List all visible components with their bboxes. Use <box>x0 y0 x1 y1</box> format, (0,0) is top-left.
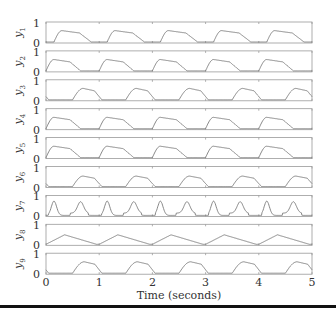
y-tick-1: 1 <box>33 190 40 203</box>
y-tick-1: 1 <box>33 104 40 117</box>
y-tick-1: 1 <box>33 17 40 30</box>
x-tick-label-5: 5 <box>309 276 316 289</box>
series-label-y3: y3 <box>12 85 27 97</box>
panel-frame <box>46 138 312 159</box>
y-tick-1: 1 <box>33 162 40 175</box>
panel-y5: 10y5 <box>12 133 312 166</box>
waveform-y5 <box>46 146 312 157</box>
series-label-y9: y9 <box>12 258 27 270</box>
y-tick-1: 1 <box>33 219 40 232</box>
waveform-y7 <box>46 201 312 215</box>
panel-y7: 10y7 <box>12 190 312 223</box>
series-label-y2: y2 <box>12 56 27 68</box>
x-tick-label-2: 2 <box>149 276 156 289</box>
y-tick-1: 1 <box>33 133 40 146</box>
panel-y1: 10y1 <box>12 17 312 50</box>
panel-y8: 10y8 <box>12 219 312 252</box>
waveform-y8 <box>46 235 312 245</box>
bottom-rule-divider <box>0 305 336 308</box>
y-tick-0: 0 <box>33 268 40 281</box>
panels-group: 10y110y210y310y410y510y610y710y810y9 <box>12 17 312 281</box>
y-tick-1: 1 <box>33 46 40 59</box>
waveform-y1 <box>46 31 312 42</box>
x-tick-label-0: 0 <box>43 276 50 289</box>
x-tick-label-4: 4 <box>255 276 262 289</box>
stacked-time-series-figure: 10y110y210y310y410y510y610y710y810y9 012… <box>0 0 336 322</box>
series-label-y6: y6 <box>12 171 27 183</box>
panel-y2: 10y2 <box>12 46 312 79</box>
panel-y3: 10y3 <box>12 75 312 108</box>
panel-y9: 10y9 <box>12 248 312 281</box>
panel-y6: 10y6 <box>12 162 312 195</box>
panel-frame <box>46 51 312 72</box>
x-tick-label-3: 3 <box>202 276 209 289</box>
waveform-y6 <box>46 176 312 186</box>
x-axis-ticks: 012345 <box>43 276 316 289</box>
waveform-y2 <box>46 60 312 71</box>
y-tick-1: 1 <box>33 75 40 88</box>
x-tick-label-1: 1 <box>96 276 103 289</box>
series-label-y5: y5 <box>12 143 27 155</box>
y-tick-1: 1 <box>33 248 40 261</box>
series-label-y8: y8 <box>12 229 27 241</box>
panel-frame <box>46 109 312 130</box>
panel-y4: 10y4 <box>12 104 312 137</box>
waveform-y9 <box>46 262 312 273</box>
waveform-y4 <box>46 117 312 128</box>
series-label-y7: y7 <box>12 201 27 213</box>
series-label-y4: y4 <box>12 113 27 125</box>
panel-frame <box>46 253 312 274</box>
x-axis-label: Time (seconds) <box>137 289 222 302</box>
panel-frame <box>46 80 312 101</box>
series-label-y1: y1 <box>12 27 27 39</box>
waveform-y3 <box>46 88 312 99</box>
panel-frame <box>46 224 312 245</box>
